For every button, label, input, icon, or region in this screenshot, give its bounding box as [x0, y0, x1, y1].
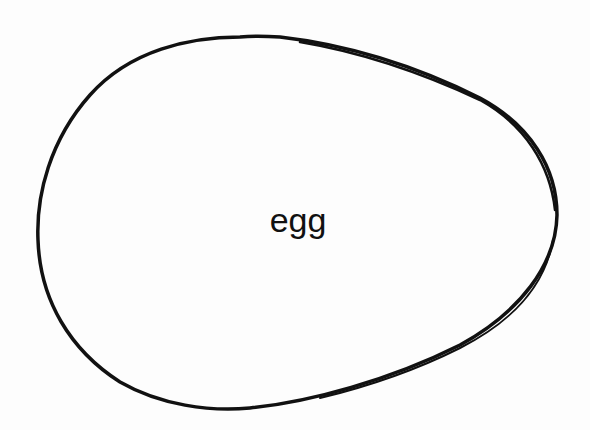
egg-label: egg — [248, 200, 348, 240]
diagram-canvas: egg — [0, 0, 590, 430]
